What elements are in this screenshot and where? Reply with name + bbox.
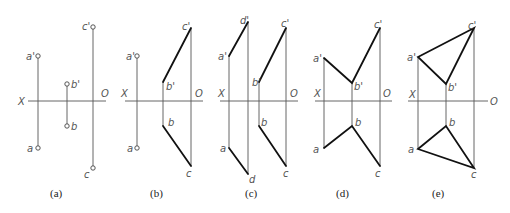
panel-d: X O a' a b' b c' c (d) <box>313 19 392 200</box>
edge-a-d <box>229 148 248 174</box>
label-b: b <box>71 121 77 132</box>
caption-c: (c) <box>245 187 258 200</box>
label-b: b <box>168 117 174 128</box>
label-a: a <box>408 144 414 155</box>
axis-label-o: O <box>101 88 109 99</box>
edge-b-prime-c-prime <box>163 28 191 82</box>
label-b-prime: b' <box>448 82 457 93</box>
label-a: a <box>313 144 319 155</box>
caption-d: (d) <box>336 187 349 200</box>
point-c <box>91 166 95 170</box>
label-b-prime: b' <box>252 77 261 88</box>
label-a: a <box>27 143 33 154</box>
point-a-prime <box>135 54 139 58</box>
label-c: c <box>471 169 477 180</box>
label-a-prime: a' <box>126 51 135 62</box>
axis-label-x: X <box>313 88 322 99</box>
edge-a-prime-d-prime <box>229 22 248 56</box>
point-b-prime <box>65 82 69 86</box>
label-c-prime: c' <box>281 18 289 29</box>
point-b <box>65 124 69 128</box>
label-c: c <box>84 169 90 180</box>
axis-label-o: O <box>490 96 498 107</box>
caption-b: (b) <box>150 187 163 200</box>
label-a: a <box>220 143 226 154</box>
label-a-prime: a' <box>407 52 416 63</box>
axis-label-x: X <box>408 89 417 100</box>
axis-label-o: O <box>290 88 298 99</box>
edge-b-prime-c-prime <box>259 28 286 82</box>
label-b-prime: b' <box>71 79 80 90</box>
edge-b-c <box>259 126 286 166</box>
label-b-prime: b' <box>354 81 363 92</box>
edges-top-view <box>324 126 380 166</box>
triangle-top-view <box>418 126 474 168</box>
panel-a: X O a' a b' b c' c (a) <box>17 21 109 200</box>
label-b-prime: b' <box>166 81 175 92</box>
label-c: c <box>283 168 289 179</box>
panel-c: X O d' a' a d b' b c' c (c) <box>217 15 298 200</box>
point-c-prime <box>91 25 95 29</box>
label-c: c <box>375 168 381 179</box>
point-a <box>36 146 40 150</box>
label-b: b <box>261 117 267 128</box>
label-a: a <box>127 143 133 154</box>
panel-b: X O a' a b' b c' c (b) <box>120 21 203 200</box>
edges-front-view <box>324 28 380 83</box>
axis-label-x: X <box>17 96 26 107</box>
point-a-prime <box>36 54 40 58</box>
label-c-prime: c' <box>374 19 382 30</box>
caption-e: (e) <box>432 187 445 200</box>
panel-e: X O a' a b' b c' c (e) <box>407 20 498 200</box>
label-d: d <box>249 174 256 185</box>
axis-label-o: O <box>383 88 391 99</box>
label-a-prime: a' <box>313 53 322 64</box>
label-d-prime: d' <box>240 15 249 26</box>
label-c-prime: c' <box>82 21 90 32</box>
label-a-prime: a' <box>26 51 35 62</box>
label-a-prime: a' <box>218 51 227 62</box>
point-a <box>135 146 139 150</box>
caption-a: (a) <box>50 187 63 200</box>
label-b: b <box>355 117 361 128</box>
label-b: b <box>449 117 455 128</box>
axis-label-o: O <box>195 88 203 99</box>
edge-b-c <box>163 126 191 166</box>
label-c-prime: c' <box>468 20 476 31</box>
triangle-front-view <box>418 28 474 84</box>
projection-figure: X O a' a b' b c' c (a) X O a' a b' b c' … <box>0 0 510 213</box>
label-c-prime: c' <box>182 21 190 32</box>
axis-label-x: X <box>120 88 129 99</box>
axis-label-x: X <box>217 88 226 99</box>
label-c: c <box>186 168 192 179</box>
